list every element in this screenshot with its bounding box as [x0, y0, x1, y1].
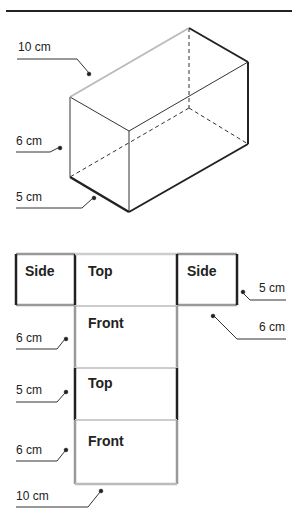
net-front-height-label: 6 cm — [16, 331, 42, 345]
net-side-height-label: 6 cm — [259, 320, 285, 334]
prism-width-label: 5 cm — [16, 190, 42, 204]
net-top-width-label: 5 cm — [16, 383, 42, 397]
rectangular-prism — [70, 28, 248, 212]
net-side-width-label: 5 cm — [259, 281, 285, 295]
face-side-left: Side — [25, 263, 55, 279]
face-top-2: Top — [88, 375, 113, 391]
net-leaders — [16, 290, 286, 507]
face-top-main: Top — [88, 263, 113, 279]
prism-length-label: 10 cm — [18, 40, 51, 54]
diagram-canvas — [0, 0, 299, 521]
face-side-right: Side — [187, 263, 217, 279]
face-front-2: Front — [88, 433, 124, 449]
net — [16, 254, 237, 484]
net-length-label: 10 cm — [16, 489, 49, 503]
face-front-1: Front — [88, 315, 124, 331]
net-front2-height-label: 6 cm — [16, 443, 42, 457]
prism-height-label: 6 cm — [16, 134, 42, 148]
